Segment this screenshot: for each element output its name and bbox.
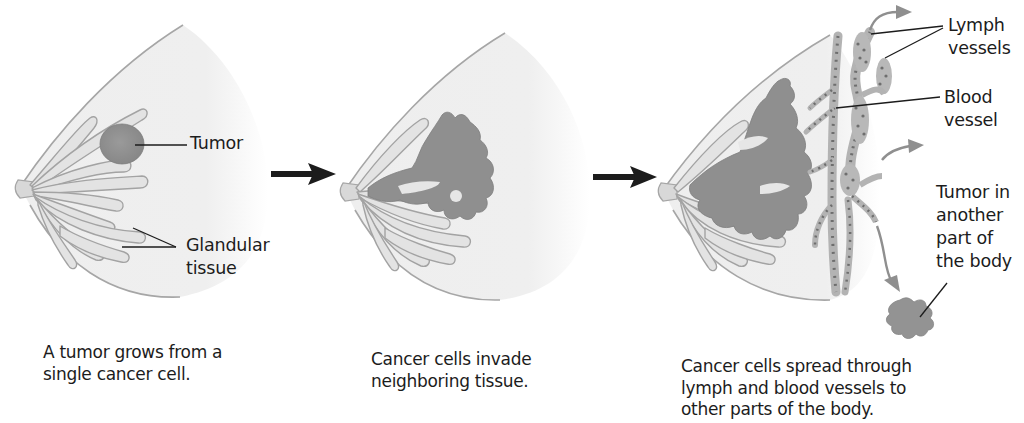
caption-line: neighboring tissue. <box>371 371 531 393</box>
stage-2-illustration <box>340 33 590 300</box>
vessels-label: vessels <box>948 37 1011 60</box>
caption-stage-2: Cancer cells invade neighboring tissue. <box>371 349 531 392</box>
another-label: another <box>936 204 1003 227</box>
distant-tumor <box>886 298 933 339</box>
blood-label: Blood <box>944 86 992 109</box>
caption-line: single cancer cell. <box>43 364 222 386</box>
caption-line: A tumor grows from a <box>43 342 222 364</box>
stage-3-illustration <box>658 5 947 339</box>
tissue-label: tissue <box>186 257 237 280</box>
part-of-label: part of <box>936 227 993 250</box>
glandular-label: Glandular <box>186 234 269 257</box>
caption-line: Cancer cells spread through <box>681 356 912 378</box>
spread-arrow-down <box>877 226 892 282</box>
right-arrow-icon <box>593 166 657 188</box>
spread-arrow-middle-head <box>908 139 924 153</box>
spread-arrow-top <box>870 12 898 30</box>
caption-line: Cancer cells invade <box>371 349 531 371</box>
right-arrow-icon <box>271 163 336 185</box>
lymph-label: Lymph <box>948 14 1005 37</box>
tumor <box>100 124 144 164</box>
vessel-label: vessel <box>944 109 998 132</box>
spread-arrow-middle <box>882 146 910 160</box>
tumor-label: Tumor <box>190 132 243 155</box>
spread-arrow-down-head <box>884 275 900 292</box>
caption-line: other parts of the body. <box>681 399 912 421</box>
caption-stage-1: A tumor grows from a single cancer cell. <box>43 342 222 385</box>
spread-arrow-top-head <box>896 5 912 19</box>
tumor-in-label: Tumor in <box>936 181 1010 204</box>
the-body-label: the body <box>936 250 1012 273</box>
caption-line: lymph and blood vessels to <box>681 378 912 400</box>
caption-stage-3: Cancer cells spread through lymph and bl… <box>681 356 912 421</box>
